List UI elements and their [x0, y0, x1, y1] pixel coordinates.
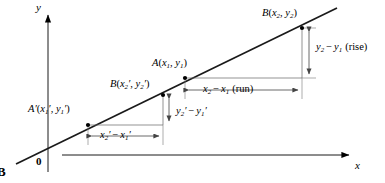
rise-minus: − — [326, 41, 332, 52]
point-a-y-sub: 1 — [180, 62, 183, 69]
run-prime-minus: − — [112, 129, 118, 140]
rise-subtrahend-sub: 1 — [339, 46, 342, 53]
point-bp-y-sub: 2 — [140, 83, 143, 90]
point-a-close: ) — [183, 57, 187, 68]
rise-annotation: (rise) — [345, 41, 367, 52]
origin-label: 0 — [36, 156, 42, 167]
rise-minuend-sub: 2 — [321, 46, 324, 53]
point-bp-x-sub: 2 — [125, 83, 128, 90]
figure-tag: B — [0, 164, 6, 180]
rise-prime-minus: − — [188, 105, 194, 116]
rise-prime-minuend-prime: ′ — [184, 105, 186, 116]
point-ap-x-sub: 1 — [45, 108, 48, 115]
point-label-a-prime: A′(x1′, y1′) — [28, 104, 70, 115]
point-label-b: B(x2, y2) — [262, 8, 297, 19]
run-minuend-sub: 2 — [208, 88, 211, 95]
point-marker-b — [300, 26, 304, 30]
run-minuend: x — [203, 83, 208, 94]
point-marker-a-prime — [86, 123, 90, 127]
run-prime-minuend: x — [100, 129, 105, 140]
y-axis-label: y — [36, 2, 41, 13]
slope-line — [16, 8, 337, 164]
figure-canvas — [0, 0, 385, 183]
rise-prime-minuend: y — [176, 105, 181, 116]
point-ap-close: ) — [66, 103, 70, 114]
point-ap-y: y — [56, 103, 61, 114]
point-marker-a — [183, 76, 187, 80]
run-measure-label: x2−x1(run) — [203, 84, 253, 95]
rise-prime-subtrahend-sub: 1 — [201, 110, 204, 117]
point-label-b-prime: B(x2′, y2′) — [110, 79, 150, 90]
point-b-close: ) — [293, 7, 297, 18]
point-bp-x: x — [120, 78, 125, 89]
point-a-x: x — [162, 57, 167, 68]
run-prime-minuend-sub: 2 — [105, 134, 108, 141]
rise-measure-label: y2−y1(rise) — [316, 42, 367, 53]
run-annotation: (run) — [232, 83, 253, 94]
point-b-x: x — [272, 7, 277, 18]
point-b-y-sub: 2 — [290, 12, 293, 19]
rise-minuend: y — [316, 41, 321, 52]
point-ap-y-sub: 1 — [61, 108, 64, 115]
run-prime-measure-label: x2′−x1′ — [100, 130, 131, 141]
point-bp-close: ) — [146, 78, 150, 89]
run-prime-subtrahend-sub: 1 — [125, 134, 128, 141]
point-a-x-sub: 1 — [167, 62, 170, 69]
point-b-x-sub: 2 — [277, 12, 280, 19]
x-axis-label: x — [355, 160, 360, 171]
run-prime-minuend-prime: ′ — [108, 129, 110, 140]
slope-figure: y x 0 B B(x2, y2) A(x1, y1) B(x2′, y2′) … — [0, 0, 385, 183]
point-label-a: A(x1, y1) — [152, 58, 187, 69]
rise-prime-minuend-sub: 2 — [181, 110, 184, 117]
rise-prime-measure-label: y2′−y1′ — [176, 106, 207, 117]
run-minus: − — [213, 83, 219, 94]
run-subtrahend-sub: 1 — [226, 88, 229, 95]
point-marker-b-prime — [161, 93, 165, 97]
